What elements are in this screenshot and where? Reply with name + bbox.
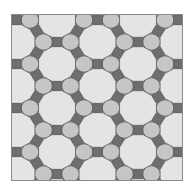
square-tile: [52, 37, 62, 46]
hexagon-tile: [182, 100, 196, 116]
square-tile: [192, 3, 196, 16]
square-tile: [174, 147, 184, 156]
square-tile: [133, 0, 143, 3]
dodecagon-tile: [0, 69, 35, 104]
dodecagon-tile: [39, 3, 76, 38]
square-tile: [133, 125, 143, 134]
square-tile: [133, 37, 143, 46]
square-tile: [192, 69, 196, 82]
dodecagon-tile: [120, 47, 157, 82]
square-tile: [174, 59, 184, 68]
square-tile: [12, 147, 22, 156]
dodecagon-tile: [0, 157, 35, 186]
dodecagon-tile: [0, 25, 35, 60]
square-tile: [12, 103, 22, 112]
dodecagon-tile: [0, 113, 35, 148]
square-tile: [52, 169, 62, 178]
hexagon-tile: [0, 144, 13, 160]
hexagon-tile: [0, 56, 13, 72]
square-tile: [192, 179, 196, 186]
square-tile: [71, 3, 85, 16]
square-tile: [0, 69, 3, 82]
hexagon-tile: [0, 12, 13, 28]
square-tile: [0, 113, 3, 126]
hexagon-tile: [182, 144, 196, 160]
square-tile: [152, 3, 166, 16]
square-tile: [133, 81, 143, 90]
dodecagon-tile: [0, 0, 35, 15]
tiling-figure: [0, 0, 196, 186]
square-tile: [93, 103, 103, 112]
hexagon-tile: [0, 100, 13, 116]
square-tile: [0, 157, 3, 170]
hexagon-tile: [34, 0, 54, 6]
square-tile: [93, 59, 103, 68]
square-tile: [93, 15, 103, 24]
square-tile: [174, 15, 184, 24]
square-tile: [192, 135, 196, 148]
dodecagon-tile: [79, 0, 116, 15]
dodecagon-tile: [79, 69, 116, 104]
square-tile: [174, 103, 184, 112]
square-tile: [30, 3, 44, 16]
square-tile: [0, 25, 3, 38]
square-tile: [12, 59, 22, 68]
square-tile: [52, 81, 62, 90]
hexagon-tile: [142, 0, 162, 6]
dodecagon-tile: [120, 135, 157, 170]
dodecagon-tile: [79, 25, 116, 60]
dodecagon-tile: [120, 91, 157, 126]
dodecagon-tile: [39, 47, 76, 82]
hexagon-tile: [115, 0, 135, 6]
dodecagon-tile: [79, 113, 116, 148]
square-tile: [192, 157, 196, 170]
tiling-svg: [0, 0, 196, 186]
dodecagon-tile: [120, 3, 157, 38]
dodecagon-tile: [39, 91, 76, 126]
square-tile: [192, 47, 196, 60]
dodecagon-tile: [160, 69, 196, 104]
dodecagon-tile: [160, 0, 196, 15]
square-tile: [52, 125, 62, 134]
square-tile: [192, 113, 196, 126]
square-tile: [0, 91, 3, 104]
dodecagon-tile: [160, 25, 196, 60]
square-tile: [0, 179, 3, 186]
square-tile: [52, 0, 62, 3]
square-tile: [12, 15, 22, 24]
square-tile: [192, 25, 196, 38]
hexagon-tile: [61, 0, 81, 6]
hexagon-tile: [182, 12, 196, 28]
dodecagon-tile: [160, 157, 196, 186]
square-tile: [0, 47, 3, 60]
square-tile: [0, 3, 3, 16]
dodecagon-tile: [79, 157, 116, 186]
square-tile: [111, 3, 125, 16]
tiles-group: [0, 0, 196, 186]
dodecagon-tile: [160, 113, 196, 148]
square-tile: [133, 169, 143, 178]
square-tile: [93, 147, 103, 156]
square-tile: [192, 91, 196, 104]
square-tile: [0, 135, 3, 148]
hexagon-tile: [182, 56, 196, 72]
dodecagon-tile: [39, 135, 76, 170]
